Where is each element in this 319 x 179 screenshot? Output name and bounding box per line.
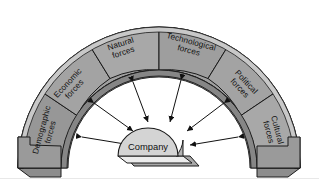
diagram-canvas: Demographic forces Economic forces Natur…	[0, 0, 319, 179]
company-base-top	[118, 156, 192, 163]
arrow-cultural	[190, 137, 238, 145]
arrow-political	[187, 103, 224, 131]
company-node[interactable]: Company	[118, 128, 199, 166]
forces-diagram: Demographic forces Economic forces Natur…	[0, 0, 319, 179]
arrow-economic	[94, 103, 133, 131]
company-label: Company	[128, 141, 168, 152]
arrow-natural	[133, 82, 148, 122]
arrow-technological	[170, 80, 181, 122]
